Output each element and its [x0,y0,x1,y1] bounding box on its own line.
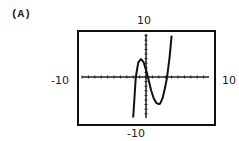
axes [82,34,209,118]
graph-screen [0,0,239,141]
